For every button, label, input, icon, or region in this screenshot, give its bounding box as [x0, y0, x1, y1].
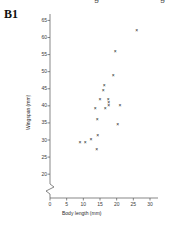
data-point	[111, 73, 116, 78]
data-point	[83, 140, 88, 145]
data-point	[94, 147, 99, 152]
data-point	[89, 137, 94, 142]
x-tick-label: 20	[109, 202, 125, 207]
x-tick-label: 25	[125, 202, 141, 207]
data-point	[95, 133, 100, 138]
data-point	[115, 122, 120, 127]
y-tick-label: 50	[32, 69, 47, 74]
y-tick-label: 45	[32, 86, 47, 91]
y-tick-label: 65	[32, 18, 47, 23]
data-point	[113, 49, 118, 54]
y-tick-label: 55	[32, 52, 47, 57]
data-point	[106, 103, 111, 108]
x-axis-title: Body length (mm)	[62, 211, 101, 216]
y-tick-label: 20	[32, 172, 47, 177]
data-point	[93, 106, 98, 111]
x-tick-label: 0	[42, 202, 58, 207]
y-tick-label: 30	[32, 138, 47, 143]
data-point	[95, 117, 100, 122]
data-point	[98, 97, 103, 102]
y-tick-label: 35	[32, 120, 47, 125]
data-point	[78, 140, 83, 145]
data-point	[118, 103, 123, 108]
data-point	[102, 83, 107, 88]
figure-panel: g g B1 20253035404550556065051015202530 …	[0, 0, 171, 226]
data-point	[101, 88, 106, 93]
y-tick-label: 40	[32, 103, 47, 108]
x-tick-label: 30	[142, 202, 158, 207]
y-tick-label: 60	[32, 35, 47, 40]
x-tick-label: 15	[92, 202, 108, 207]
y-tick-label: 25	[32, 155, 47, 160]
scatter-plot: 20253035404550556065051015202530 Wingspa…	[0, 0, 171, 226]
x-tick-label: 10	[75, 202, 91, 207]
x-tick-label: 5	[59, 202, 75, 207]
y-axis-title: Wingspan (mm)	[26, 95, 31, 130]
data-point	[134, 28, 139, 33]
